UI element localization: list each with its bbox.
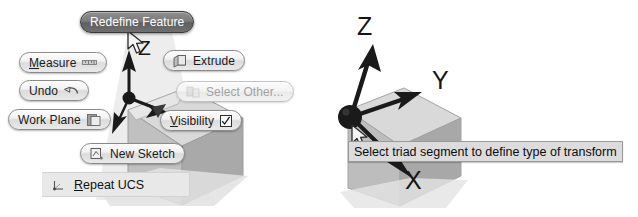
menu-item-label: Visibility — [170, 115, 214, 127]
axis-label-y: Y — [432, 66, 449, 95]
undo-arrow-icon — [64, 85, 79, 96]
menu-item-label-rest: easure — [39, 56, 76, 70]
menu-item-label: Work Plane — [18, 114, 81, 126]
menu-item-new-sketch[interactable]: New Sketch — [80, 143, 185, 164]
menu-item-label: Measure — [29, 57, 76, 69]
menu-item-label: Select Other... — [206, 86, 284, 98]
menu-item-label: Undo — [29, 85, 58, 97]
menu-item-visibility[interactable]: Visibility — [160, 110, 242, 131]
menu-item-work-plane[interactable]: Work Plane — [8, 109, 111, 130]
menu-item-measure[interactable]: Measure — [19, 52, 107, 73]
left-panel: Z Redefine Feature Measure — [0, 0, 320, 217]
right-panel: Z Y X Select triad segment to define typ… — [318, 0, 638, 217]
axis-label-z: Z — [357, 12, 372, 41]
screenshot-canvas: Z Redefine Feature Measure — [0, 0, 638, 217]
plane-icon — [87, 113, 101, 127]
checkbox-checked-icon[interactable] — [220, 115, 232, 127]
menu-item-label: Repeat UCS — [74, 178, 144, 192]
menu-item-select-other[interactable]: Select Other... — [176, 81, 294, 102]
menu-item-extrude[interactable]: Extrude — [163, 50, 245, 71]
menu-item-label-rest: isibility — [178, 114, 214, 128]
menu-item-label: Redefine Feature — [90, 16, 184, 28]
menu-item-undo[interactable]: Undo — [19, 80, 89, 101]
extrude-icon — [173, 54, 187, 68]
menu-item-label: New Sketch — [110, 148, 175, 160]
menu-item-repeat-ucs[interactable]: Repeat UCS — [42, 172, 190, 197]
axis-label-x: X — [405, 166, 422, 195]
ruler-icon — [82, 58, 97, 67]
menu-item-label-rest: epeat UCS — [83, 178, 144, 192]
menu-item-redefine-feature[interactable]: Redefine Feature — [80, 11, 194, 33]
arrow-cursor-icon — [126, 30, 146, 56]
menu-item-label: Extrude — [193, 55, 235, 67]
ucs-triad-icon — [52, 178, 66, 192]
tooltip-transform-hint: Select triad segment to define type of t… — [348, 141, 623, 162]
select-other-icon — [186, 85, 200, 99]
sketch-icon — [90, 147, 104, 161]
